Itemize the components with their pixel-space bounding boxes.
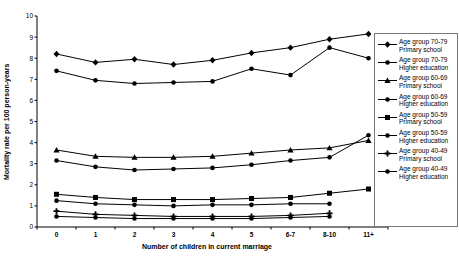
legend-item: Age group 60-69Higher education — [378, 93, 455, 108]
diamond-marker-icon — [249, 50, 255, 56]
circle-marker-icon — [288, 201, 293, 206]
circle-marker-icon — [288, 158, 293, 163]
diamond-marker-icon — [288, 44, 294, 50]
y-tick-label: 9 — [29, 34, 33, 41]
diamond-marker-icon — [54, 51, 60, 57]
axes: 0123456789100123456-78-1011+ — [26, 12, 388, 238]
square-marker-icon — [171, 197, 176, 202]
y-tick-label: 7 — [29, 76, 33, 83]
legend-item-label: Age group 70-79Higher education — [399, 56, 448, 71]
legend-item: Age group 40-49Higher education — [378, 165, 455, 180]
circle-marker-icon — [210, 166, 215, 171]
x-tick-label: 4 — [211, 231, 215, 238]
circle-marker-icon — [378, 95, 397, 104]
circle-marker-icon — [378, 58, 397, 67]
circle-marker-icon — [93, 78, 98, 83]
mortality-line-chart: 0123456789100123456-78-1011+ Mortality r… — [0, 0, 459, 258]
series-circle — [54, 45, 371, 85]
circle-marker-icon — [132, 81, 137, 86]
x-tick-label: 2 — [133, 231, 137, 238]
circle-marker-icon — [93, 165, 98, 170]
square-marker-icon — [249, 196, 254, 201]
circle-marker-icon — [366, 133, 371, 138]
series-line — [57, 48, 369, 84]
legend-item: Age group 60-69Primary school — [378, 74, 455, 89]
x-tick-label: 5 — [250, 231, 254, 238]
y-tick-label: 10 — [26, 12, 34, 19]
square-marker-icon — [378, 113, 397, 122]
circle-marker-icon — [93, 215, 98, 220]
legend: Age group 70-79Primary schoolAge group 7… — [374, 33, 458, 227]
circle-marker-icon — [132, 216, 137, 221]
legend-item: Age group 70-79Primary school — [378, 38, 455, 53]
y-tick-label: 6 — [29, 97, 33, 104]
circle-marker-icon — [385, 97, 390, 102]
square-marker-icon — [288, 195, 293, 200]
circle-marker-icon — [54, 69, 59, 74]
plus-marker-icon — [385, 151, 391, 157]
legend-item-label: Age group 50-59Primary school — [399, 111, 447, 126]
square-marker-icon — [385, 115, 390, 120]
diamond-marker-icon — [210, 57, 216, 63]
x-tick-label: 1 — [94, 231, 98, 238]
circle-marker-icon — [288, 215, 293, 220]
y-tick-label: 2 — [29, 181, 33, 188]
circle-marker-icon — [171, 204, 176, 209]
y-tick-label: 1 — [29, 202, 33, 209]
circle-marker-icon — [327, 155, 332, 160]
diamond-marker-icon — [132, 56, 138, 62]
y-tick-label: 3 — [29, 160, 33, 167]
circle-marker-icon — [378, 167, 397, 176]
legend-item-label: Age group 70-79Primary school — [399, 38, 447, 53]
series-line — [57, 135, 369, 170]
legend-item: Age group 50-59Higher education — [378, 129, 455, 144]
triangle-marker-icon — [365, 137, 371, 142]
x-axis-title: Number of children in current marriage — [37, 243, 377, 250]
diamond-marker-icon — [366, 31, 372, 37]
circle-marker-icon — [249, 66, 254, 71]
plus-marker-icon — [54, 208, 60, 214]
circle-marker-icon — [378, 131, 397, 140]
circle-marker-icon — [327, 45, 332, 50]
circle-marker-icon — [210, 79, 215, 84]
circle-marker-icon — [210, 216, 215, 221]
circle-marker-icon — [93, 201, 98, 206]
y-tick-label: 4 — [29, 139, 33, 146]
x-tick-label: 6-7 — [286, 231, 296, 238]
circle-marker-icon — [249, 162, 254, 167]
y-tick-label: 5 — [29, 118, 33, 125]
circle-marker-icon — [249, 216, 254, 221]
series-square — [54, 187, 371, 203]
legend-item-label: Age group 40-49Primary school — [399, 147, 447, 162]
circle-marker-icon — [54, 158, 59, 163]
circle-marker-icon — [385, 60, 390, 65]
circle-marker-icon — [249, 203, 254, 208]
diamond-marker-icon — [171, 61, 177, 67]
circle-marker-icon — [54, 198, 59, 203]
circle-marker-icon — [385, 170, 390, 175]
circle-marker-icon — [171, 80, 176, 85]
plus-marker-icon — [378, 149, 397, 158]
diamond-marker-icon — [378, 40, 397, 49]
circle-marker-icon — [171, 167, 176, 172]
diamond-marker-icon — [327, 36, 333, 42]
circle-marker-icon — [171, 216, 176, 221]
legend-item: Age group 50-59Primary school — [378, 111, 455, 126]
x-tick-label: 11+ — [363, 231, 374, 238]
square-marker-icon — [132, 197, 137, 202]
x-tick-label: 3 — [172, 231, 176, 238]
legend-item-label: Age group 60-69Higher education — [399, 93, 448, 108]
square-marker-icon — [210, 197, 215, 202]
series-diamond — [54, 31, 372, 68]
square-marker-icon — [54, 192, 59, 197]
circle-marker-icon — [132, 203, 137, 208]
diamond-marker-icon — [385, 41, 391, 47]
circle-marker-icon — [210, 203, 215, 208]
x-tick-label: 8-10 — [323, 231, 336, 238]
circle-marker-icon — [385, 133, 390, 138]
circle-marker-icon — [54, 214, 59, 219]
legend-item-label: Age group 60-69Primary school — [399, 74, 447, 89]
triangle-marker-icon — [378, 76, 397, 85]
square-marker-icon — [366, 187, 371, 192]
y-tick-label: 8 — [29, 55, 33, 62]
